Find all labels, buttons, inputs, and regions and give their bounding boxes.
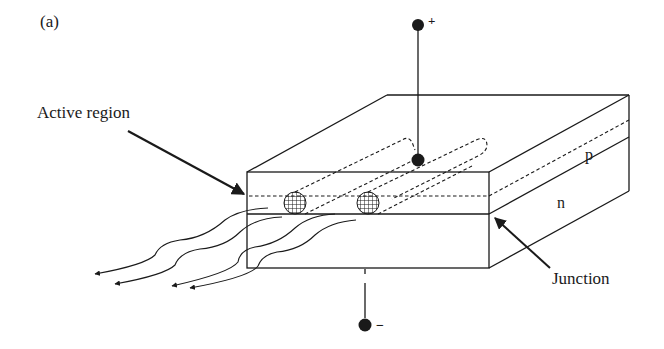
emission-spot-1 bbox=[284, 192, 306, 214]
diode-block bbox=[247, 95, 629, 268]
light-ray-1 bbox=[95, 208, 268, 274]
panel-label: (a) bbox=[40, 12, 59, 31]
light-ray-2 bbox=[115, 217, 282, 284]
positive-electrode: + bbox=[412, 13, 436, 167]
light-ray-4 bbox=[190, 220, 356, 288]
n-layer-label: n bbox=[557, 194, 565, 211]
junction-label: Junction bbox=[552, 269, 610, 288]
negative-sign: − bbox=[376, 318, 384, 333]
active-region-label: Active region bbox=[37, 103, 130, 122]
emission-spot-2 bbox=[357, 192, 379, 214]
top-right-edge bbox=[489, 95, 629, 172]
laser-diode-diagram: (a) + − p bbox=[0, 0, 664, 349]
active-region-arrow bbox=[128, 131, 244, 194]
p-layer-label: p bbox=[585, 146, 593, 164]
positive-terminal-dot bbox=[412, 19, 424, 31]
negative-electrode: − bbox=[359, 269, 385, 333]
positive-sign: + bbox=[428, 13, 435, 28]
top-contact-dot bbox=[412, 154, 425, 167]
front-face bbox=[247, 172, 489, 268]
negative-terminal-dot bbox=[359, 319, 372, 332]
top-left-edge bbox=[247, 95, 387, 172]
emitted-light-rays bbox=[95, 208, 356, 288]
